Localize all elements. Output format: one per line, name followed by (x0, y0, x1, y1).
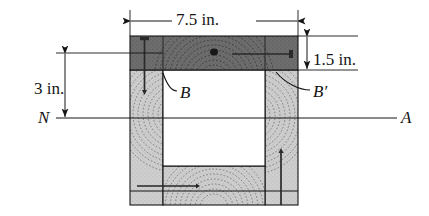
neutral-axis-label-n: N (38, 109, 49, 126)
point-b-prime-label: B′ (313, 83, 327, 100)
depth-to-axis-dimension-label: 3 in. (34, 80, 64, 97)
beam-section (118, 20, 310, 208)
point-b-label: B (180, 84, 190, 101)
flange-thickness-dimension-label: 1.5 in. (313, 51, 356, 68)
width-dimension-label: 7.5 in. (176, 11, 219, 28)
neutral-axis-label-a: A (401, 109, 411, 126)
box-beam-cross-section-figure (0, 0, 429, 216)
knot-mark (210, 49, 218, 56)
